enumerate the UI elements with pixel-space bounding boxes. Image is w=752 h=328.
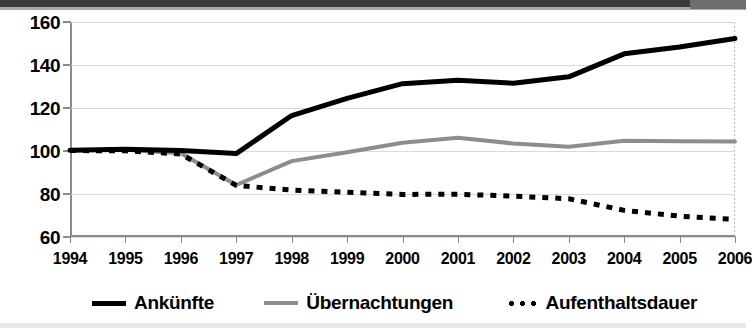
x-axis-tick-label: 2002 [496, 250, 530, 268]
x-axis-tick-label: 2001 [441, 250, 475, 268]
series-line-aufenthaltsdauer [70, 151, 735, 220]
x-axis-tick-label: 1997 [219, 250, 253, 268]
legend-line-icon-uebernachtungen [264, 301, 298, 305]
scan-artifact-bar [0, 0, 746, 9]
x-axis-tick [70, 236, 71, 243]
series-line-uebernachtungen [70, 138, 735, 185]
legend-line-icon-ankuenfte [92, 301, 126, 306]
chart-legend: Ankünfte Übernachtungen Aufenthaltsdauer [70, 288, 735, 318]
x-axis-tick-label: 1996 [164, 250, 198, 268]
plot-area [70, 22, 735, 237]
y-axis-tick-label: 80 [40, 185, 60, 204]
legend-dotted-icon-aufenthaltsdauer [504, 301, 538, 306]
series-line-ankuenfte [70, 39, 735, 154]
x-axis-tick [624, 236, 625, 243]
y-axis-tick-label: 100 [30, 142, 60, 161]
y-axis-tick-label: 160 [30, 13, 60, 32]
x-axis-tick-label: 1998 [274, 250, 308, 268]
x-axis-tick [735, 236, 736, 243]
x-axis-tick [236, 236, 237, 243]
x-axis-tick-label: 1999 [330, 250, 364, 268]
y-axis-labels: 1601401201008060 [0, 22, 60, 237]
x-axis-tick [680, 236, 681, 243]
x-axis-labels: 1994199519961997199819992000200120022003… [70, 250, 735, 274]
x-axis-tick [181, 236, 182, 243]
y-axis-tick-label: 140 [30, 56, 60, 75]
x-axis-tick-label: 2006 [718, 250, 752, 268]
x-axis-tick-label: 2005 [662, 250, 696, 268]
x-axis-tick [125, 236, 126, 243]
x-axis-tick-label: 2003 [552, 250, 586, 268]
scan-artifact-bar-right [690, 0, 746, 9]
scan-artifact-bottom-edge [0, 323, 746, 328]
x-axis-tick [513, 236, 514, 243]
x-axis-tick [347, 236, 348, 243]
series-layer [70, 22, 735, 237]
legend-item-ankuenfte: Ankünfte [92, 292, 214, 314]
legend-item-uebernachtungen: Übernachtungen [264, 292, 453, 314]
legend-item-aufenthaltsdauer: Aufenthaltsdauer [504, 292, 697, 314]
legend-label-aufenthaltsdauer: Aufenthaltsdauer [546, 292, 697, 314]
x-axis-tick [569, 236, 570, 243]
x-axis-tick [403, 236, 404, 243]
x-axis-tick [458, 236, 459, 243]
y-axis-tick-label: 60 [40, 228, 60, 247]
legend-label-ankuenfte: Ankünfte [134, 292, 214, 314]
x-axis-tick-label: 1994 [53, 250, 87, 268]
x-axis-tick-label: 2004 [607, 250, 641, 268]
x-axis-tick-label: 2000 [385, 250, 419, 268]
x-axis-tick [292, 236, 293, 243]
x-axis-tick-label: 1995 [108, 250, 142, 268]
y-axis-tick-label: 120 [30, 99, 60, 118]
legend-label-uebernachtungen: Übernachtungen [306, 292, 453, 314]
